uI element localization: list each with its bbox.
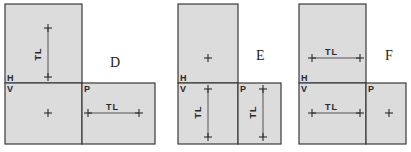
horizontal-plane [178, 4, 238, 83]
true-length-label: TL [248, 106, 258, 119]
label-p: P [84, 84, 90, 94]
horizontal-plane [299, 4, 366, 83]
panel-letter: D [110, 55, 120, 70]
true-length-label: TL [325, 47, 338, 57]
true-length-label: TL [325, 102, 338, 112]
vertical-plane [5, 83, 82, 144]
panel-e: HVPETLTL [178, 4, 281, 144]
label-v: V [180, 84, 186, 94]
true-length-label: TL [33, 48, 43, 61]
panel-d: HVPDTLTL [5, 4, 155, 144]
panel-letter: F [385, 48, 393, 63]
orthographic-projection-diagram: HVPDTLTLHVPETLTLHVPFTLTL [0, 0, 411, 152]
horizontal-plane [5, 4, 82, 83]
label-h: H [7, 73, 14, 83]
true-length-label: TL [106, 102, 119, 112]
label-p: P [240, 84, 246, 94]
true-length-label: TL [193, 106, 203, 119]
panel-letter: E [256, 48, 265, 63]
label-h: H [301, 73, 308, 83]
label-p: P [368, 84, 374, 94]
label-h: H [180, 73, 187, 83]
panel-f: HVPFTLTL [299, 4, 406, 144]
label-v: V [301, 84, 307, 94]
label-v: V [7, 84, 13, 94]
